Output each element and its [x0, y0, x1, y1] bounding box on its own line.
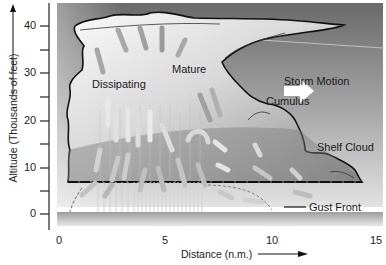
x-tick-15: 15 [370, 234, 382, 246]
x-tick-0: 0 [56, 234, 62, 246]
label-cumulus: Cumulus [266, 95, 309, 107]
y-tick-40: 40 [24, 19, 36, 31]
y-axis-label: Altitude (Thousands of feet) [7, 53, 19, 183]
y-tick-10: 10 [24, 161, 36, 173]
x-tick-5: 5 [162, 234, 168, 246]
storm-diagram [0, 0, 386, 265]
label-shelf-cloud: Shelf Cloud [317, 141, 374, 153]
label-storm-motion: Storm Motion [284, 75, 349, 87]
y-tick-20: 20 [24, 114, 36, 126]
y-tick-30: 30 [24, 66, 36, 78]
x-axis-label: Distance (n.m.) [181, 248, 252, 260]
label-gust-front: Gust Front [309, 201, 361, 213]
y-axis [40, 3, 49, 230]
label-dissipating: Dissipating [92, 78, 146, 90]
ground [57, 212, 383, 226]
label-mature: Mature [172, 63, 206, 75]
x-tick-10: 10 [266, 234, 278, 246]
y-tick-0: 0 [30, 207, 36, 219]
